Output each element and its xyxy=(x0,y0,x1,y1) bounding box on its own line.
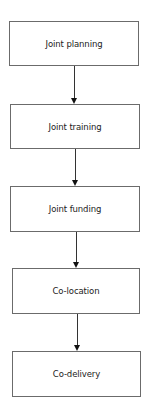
node-label: Joint training xyxy=(48,122,101,132)
node-label: Co-location xyxy=(53,286,100,296)
edge-1-line xyxy=(74,66,75,98)
node-joint-training: Joint training xyxy=(10,104,140,149)
edge-3-line xyxy=(76,232,77,262)
node-label: Joint funding xyxy=(49,204,102,214)
node-joint-planning: Joint planning xyxy=(9,21,139,66)
node-co-delivery: Co-delivery xyxy=(12,351,141,397)
node-label: Co-delivery xyxy=(53,369,100,379)
node-co-location: Co-location xyxy=(12,268,140,314)
edge-4-line xyxy=(77,314,78,345)
node-joint-funding: Joint funding xyxy=(10,186,140,232)
node-label: Joint planning xyxy=(46,39,103,49)
edge-2-line xyxy=(75,149,76,180)
